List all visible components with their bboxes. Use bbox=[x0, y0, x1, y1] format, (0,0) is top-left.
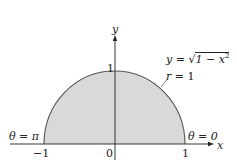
x-tick-neg1: −1 bbox=[33, 148, 49, 159]
x-axis-label: x bbox=[217, 140, 223, 151]
semicircle-diagram: y x 1 −1 0 1 y = √1 − x2 r = 1 θ = π θ =… bbox=[0, 0, 237, 164]
theta-zero-label: θ = 0 bbox=[188, 131, 218, 142]
theta-pi-label: θ = π bbox=[9, 131, 39, 142]
y-axis-label: y bbox=[112, 24, 118, 35]
x-tick-1: 1 bbox=[182, 148, 189, 159]
x-tick-0: 0 bbox=[106, 148, 113, 159]
polar-equation-label: r = 1 bbox=[166, 71, 194, 82]
semicircle-region bbox=[44, 71, 185, 144]
y-tick-1: 1 bbox=[107, 63, 114, 74]
curve-equation-label: y = √1 − x2 bbox=[166, 53, 229, 65]
